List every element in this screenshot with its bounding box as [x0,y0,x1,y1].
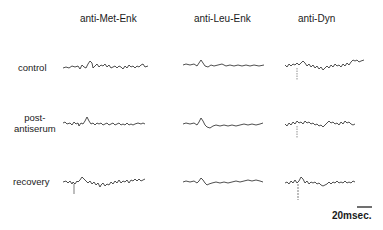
trace-leu-enk-post [183,118,263,128]
traces-panel [0,0,383,230]
trace-met-enk-post [63,117,145,126]
trace-met-enk-recovery [63,177,145,187]
trace-met-enk-control [63,61,148,69]
trace-dyn-post [285,121,355,127]
trace-dyn-recovery [285,177,355,186]
scale-bar-label: 20msec. [332,210,371,221]
trace-leu-enk-recovery [183,178,263,185]
trace-leu-enk-control [183,60,264,67]
